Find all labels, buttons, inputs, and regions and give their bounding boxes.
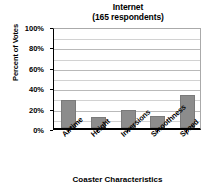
x-axis-ticks: AirtimeHeightInversionsSmoothnessSpeed [53, 132, 201, 174]
chart-subtitle: (165 respondents) [52, 12, 204, 22]
y-axis-tick-mark [50, 89, 53, 90]
y-axis-tick-mark [50, 110, 53, 111]
y-axis-tick-label: 20% [10, 105, 44, 114]
y-axis-tick-mark [50, 130, 53, 131]
y-axis-tick-mark [50, 69, 53, 70]
y-axis-tick-label: 100% [10, 24, 44, 33]
y-axis-tick-label: 0% [10, 126, 44, 135]
y-axis-tick-mark [50, 28, 53, 29]
y-axis-tick-label: 80% [10, 44, 44, 53]
x-axis-title: Coaster Characteristics [30, 175, 205, 184]
chart-title-block: Internet (165 respondents) [52, 2, 204, 22]
bar-chart-figure: Internet (165 respondents) Percent of Vo… [0, 0, 207, 194]
y-axis-tick-label: 40% [10, 85, 44, 94]
y-axis-tick-mark [50, 48, 53, 49]
chart-title: Internet [52, 2, 204, 12]
y-axis-tick-label: 60% [10, 64, 44, 73]
